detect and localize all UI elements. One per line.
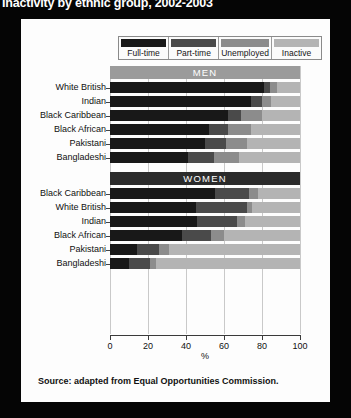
category-label: Black African [21, 124, 106, 135]
bar-segment [205, 138, 226, 149]
bar-segment [137, 244, 160, 255]
bar-segment [169, 244, 300, 255]
legend-swatch [274, 39, 319, 47]
category-tick [106, 250, 110, 251]
legend-swatch [121, 39, 166, 47]
category-label: Indian [21, 216, 106, 227]
category-label: Black Caribbean [21, 110, 106, 121]
bar-segment [214, 152, 239, 163]
axis-tick-label: 20 [143, 341, 153, 351]
bar-segment [237, 216, 245, 227]
category-tick [106, 264, 110, 265]
bar-row [110, 230, 300, 241]
axis-tick [110, 335, 111, 340]
bar-segment [228, 110, 241, 121]
category-label: Bangladeshi [21, 152, 106, 163]
category-label: Pakistani [21, 244, 106, 255]
legend-label: Full-time [121, 48, 166, 59]
category-label: Black Caribbean [21, 188, 106, 199]
category-tick [106, 222, 110, 223]
group-band-women: WOMEN [110, 172, 300, 185]
bar-segment [239, 152, 300, 163]
legend-label: Unemployed [221, 48, 269, 59]
bar-segment [182, 230, 211, 241]
category-label: Black African [21, 230, 106, 241]
category-label: White British [21, 202, 106, 213]
bar-segment [110, 230, 182, 241]
category-label: Bangladeshi [21, 258, 106, 269]
bar-segment [110, 258, 129, 269]
bar-segment [110, 244, 137, 255]
category-tick [106, 102, 110, 103]
axis-tick-label: 60 [219, 341, 229, 351]
bar-segment [277, 82, 300, 93]
bar-segment [110, 152, 188, 163]
category-tick [106, 236, 110, 237]
plot-area: MENWhite BritishIndianBlack CaribbeanBla… [110, 66, 300, 334]
legend-label: Part-time [171, 48, 216, 59]
category-tick [106, 194, 110, 195]
axis-tick-label: 100 [292, 341, 307, 351]
axis-tick-label: 40 [181, 341, 191, 351]
bar-segment [110, 202, 196, 213]
category-tick [106, 130, 110, 131]
category-tick [106, 116, 110, 117]
bar-row [110, 258, 300, 269]
category-label: Indian [21, 96, 106, 107]
source-note: Source: adapted from Equal Opportunities… [38, 376, 279, 386]
bar-row [110, 138, 300, 149]
bar-segment [249, 188, 259, 199]
bar-segment [209, 124, 228, 135]
bar-segment [251, 96, 262, 107]
category-tick [106, 158, 110, 159]
bar-segment [110, 124, 209, 135]
bar-segment [211, 230, 224, 241]
gridline [300, 66, 301, 334]
bar-row [110, 188, 300, 199]
bar-segment [258, 188, 300, 199]
chart-title: Inactivity by ethnic group, 2002-2003 [0, 0, 351, 14]
bar-segment [241, 110, 262, 121]
bar-row [110, 110, 300, 121]
bar-segment [245, 216, 300, 227]
bar-segment [251, 124, 300, 135]
legend-item: Full-time [119, 37, 169, 59]
legend-label: Inactive [274, 48, 319, 59]
axis-tick-label: 0 [107, 341, 112, 351]
bar-segment [247, 138, 300, 149]
category-label: White British [21, 82, 106, 93]
bar-row [110, 124, 300, 135]
bar-row [110, 96, 300, 107]
legend-item: Part-time [169, 37, 219, 59]
category-label: Pakistani [21, 138, 106, 149]
chart-panel: Full-timePart-timeUnemployedInactive MEN… [21, 19, 330, 402]
bar-segment [110, 82, 264, 93]
bar-row [110, 216, 300, 227]
bar-segment [215, 188, 249, 199]
bar-segment [110, 138, 205, 149]
category-tick [106, 88, 110, 89]
category-tick [106, 208, 110, 209]
bar-segment [110, 188, 215, 199]
bar-segment [110, 110, 228, 121]
bar-row [110, 244, 300, 255]
axis-tick [300, 335, 301, 340]
chart-legend: Full-timePart-timeUnemployedInactive [118, 36, 322, 60]
bar-segment [224, 230, 300, 241]
bar-segment [252, 202, 300, 213]
bar-segment [196, 202, 247, 213]
axis-tick-label: 80 [257, 341, 267, 351]
bar-segment [271, 96, 300, 107]
bar-segment [156, 258, 300, 269]
axis-tick [262, 335, 263, 340]
bar-segment [228, 124, 251, 135]
legend-item: Unemployed [219, 37, 272, 59]
x-axis-title: % [110, 351, 300, 361]
category-tick [106, 144, 110, 145]
bar-segment [188, 152, 215, 163]
bar-segment [270, 82, 278, 93]
axis-tick [224, 335, 225, 340]
bar-segment [129, 258, 150, 269]
bar-segment [197, 216, 237, 227]
legend-item: Inactive [272, 37, 321, 59]
